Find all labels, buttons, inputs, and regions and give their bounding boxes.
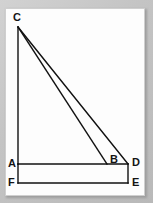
vertex-label-A: A	[8, 158, 16, 169]
segment-CB	[18, 27, 107, 164]
vertex-label-C: C	[13, 12, 21, 23]
vertex-label-F: F	[8, 177, 15, 188]
segment-CD	[18, 27, 128, 164]
vertex-label-B: B	[110, 154, 118, 165]
geometry-figure	[0, 0, 153, 203]
figure-root: C A B D F E	[0, 0, 153, 203]
vertex-label-D: D	[132, 157, 140, 168]
vertex-label-E: E	[132, 177, 139, 188]
